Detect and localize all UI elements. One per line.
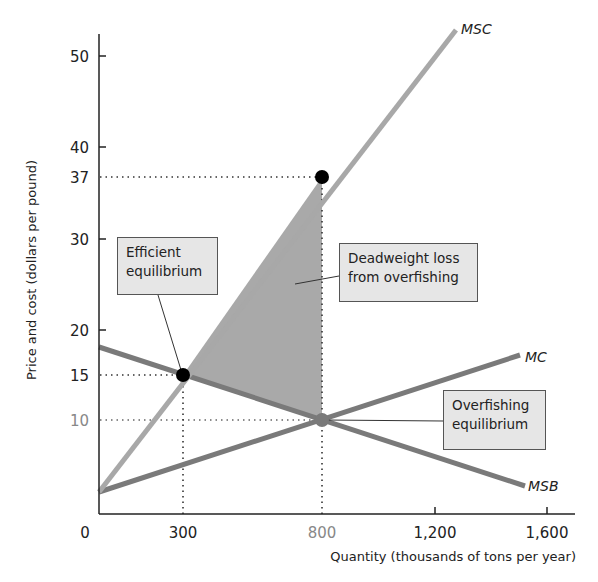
efficient-equilibrium-callout: Efficient equilibrium: [117, 237, 218, 295]
overfishing-callout-line2: equilibrium: [452, 415, 537, 434]
overfishing-equilibrium-point: [315, 413, 329, 427]
x-axis-title: Quantity (thousands of tons per year): [330, 549, 576, 564]
x-tick-1200: 1,200: [414, 524, 457, 542]
efficient-callout-line2: equilibrium: [126, 262, 209, 281]
y-tick-10: 10: [70, 412, 89, 430]
y-ticks: [99, 56, 106, 330]
efficient-equilibrium-point: [176, 368, 190, 382]
y-axis-title: Price and cost (dollars per pound): [24, 160, 39, 380]
efficient-leader-line: [158, 295, 181, 370]
y-tick-37: 37: [70, 169, 89, 187]
x-tick-1600: 1,600: [526, 524, 569, 542]
msc-label: MSC: [461, 21, 492, 37]
y-tick-30: 30: [70, 231, 89, 249]
deadweight-loss-callout: Deadweight loss from overfishing: [339, 243, 478, 302]
deadweight-callout-line1: Deadweight loss: [348, 249, 469, 268]
y-tick-40: 40: [70, 139, 89, 157]
chart-canvas: 50 40 37 30 20 15 10 0 300 800 1,200 1,6…: [0, 0, 598, 582]
x-tick-300: 300: [169, 524, 198, 542]
overfishing-equilibrium-callout: Overfishing equilibrium: [443, 390, 546, 450]
mc-label: MC: [525, 349, 547, 365]
y-tick-15: 15: [70, 367, 89, 385]
msb-label: MSB: [528, 478, 559, 494]
overfishing-leader-line: [326, 420, 443, 421]
deadweight-callout-line2: from overfishing: [348, 268, 469, 287]
x-tick-0: 0: [80, 524, 90, 542]
efficient-callout-line1: Efficient: [126, 243, 209, 262]
x-tick-800: 800: [308, 524, 337, 542]
y-tick-20: 20: [70, 322, 89, 340]
msc-800-point: [315, 170, 329, 184]
x-ticks: [435, 507, 547, 514]
overfishing-callout-line1: Overfishing: [452, 396, 537, 415]
y-tick-50: 50: [70, 48, 89, 66]
